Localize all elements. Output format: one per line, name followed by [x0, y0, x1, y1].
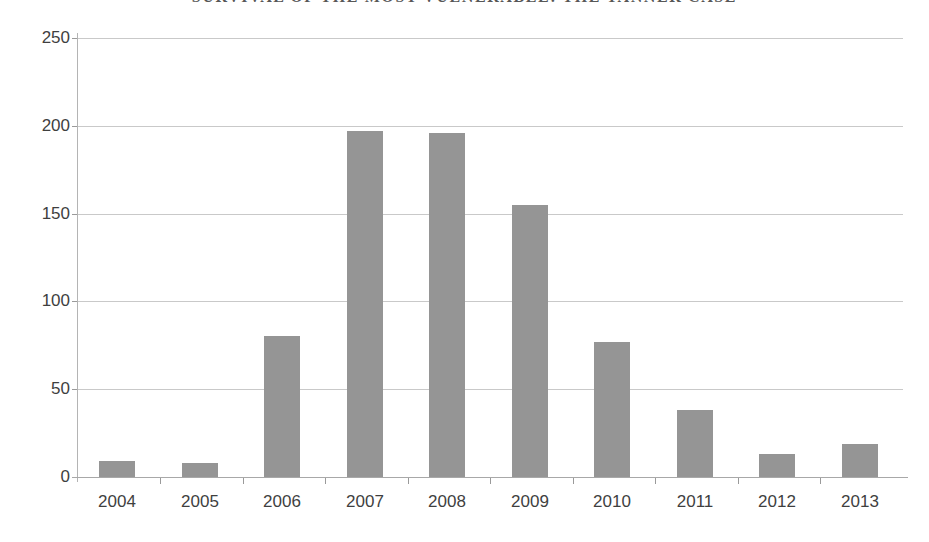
x-tick-label-2004: 2004 — [77, 492, 157, 512]
gridline-250 — [78, 38, 903, 39]
plot-area — [78, 38, 903, 477]
x-tick-label-2011: 2011 — [655, 492, 735, 512]
bar-2008 — [429, 133, 465, 477]
x-tick-label-2006: 2006 — [242, 492, 322, 512]
bar-2007 — [347, 131, 383, 477]
x-tick-mark-9 — [820, 477, 821, 484]
x-tick-label-2007: 2007 — [325, 492, 405, 512]
x-tick-mark-3 — [325, 477, 326, 484]
bar-2009 — [512, 205, 548, 477]
x-tick-label-2012: 2012 — [737, 492, 817, 512]
x-tick-mark-1 — [160, 477, 161, 484]
y-tick-label-150: 150 — [8, 204, 70, 224]
x-tick-mark-6 — [573, 477, 574, 484]
y-tick-label-250: 250 — [8, 28, 70, 48]
bar-2012 — [759, 454, 795, 477]
x-tick-mark-4 — [408, 477, 409, 484]
y-tick-label-100: 100 — [8, 291, 70, 311]
gridline-200 — [78, 126, 903, 127]
gridline-100 — [78, 301, 903, 302]
bar-chart-figure: SURVIVAL OF THE MOST VULNERABLE: THE TAN… — [0, 0, 929, 542]
bar-2013 — [842, 444, 878, 477]
x-tick-label-2013: 2013 — [820, 492, 900, 512]
x-tick-label-2005: 2005 — [160, 492, 240, 512]
bar-2011 — [677, 410, 713, 477]
bar-2005 — [182, 463, 218, 477]
y-tick-label-200: 200 — [8, 116, 70, 136]
gridline-150 — [78, 214, 903, 215]
bar-2010 — [594, 342, 630, 477]
x-tick-label-2009: 2009 — [490, 492, 570, 512]
bar-2006 — [264, 336, 300, 477]
y-axis-labels: 250 200 150 100 50 0 — [0, 0, 70, 542]
x-tick-mark-8 — [738, 477, 739, 484]
x-tick-label-2008: 2008 — [407, 492, 487, 512]
chart-title: SURVIVAL OF THE MOST VULNERABLE: THE TAN… — [0, 0, 929, 6]
y-tick-label-50: 50 — [8, 379, 70, 399]
x-tick-mark-2 — [243, 477, 244, 484]
bar-2004 — [99, 461, 135, 477]
gridline-50 — [78, 389, 903, 390]
x-tick-label-2010: 2010 — [572, 492, 652, 512]
x-tick-mark-5 — [490, 477, 491, 484]
x-tick-mark-7 — [655, 477, 656, 484]
y-tick-label-0: 0 — [8, 467, 70, 487]
x-axis-line — [72, 477, 908, 478]
